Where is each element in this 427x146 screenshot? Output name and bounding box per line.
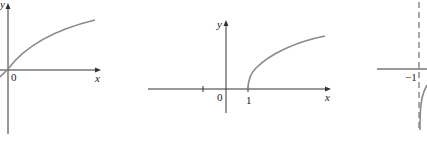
graph-c-curve: [420, 85, 427, 130]
graph-b: 0 1 x y: [148, 18, 331, 113]
graph-b-x-label: x: [324, 91, 330, 103]
graph-b-curve: [248, 36, 325, 89]
graph-a-y-arrow-icon: [6, 3, 11, 9]
graph-a: 0 x y: [0, 0, 101, 134]
graph-c-tick-label: −1: [405, 71, 417, 83]
graph-c: −1: [377, 2, 427, 132]
graph-a-x-label: x: [94, 72, 100, 84]
graph-a-curve: [0, 20, 95, 77]
graph-a-origin-label: 0: [11, 71, 17, 83]
graph-b-y-label: y: [216, 18, 222, 30]
graph-b-tick-label: 1: [246, 94, 252, 106]
figure-canvas: 0 x y 0 1 x y −1: [0, 0, 427, 146]
graph-b-y-arrow-icon: [224, 20, 229, 26]
graph-b-origin-label: 0: [217, 91, 223, 103]
graph-a-y-label: y: [0, 0, 5, 10]
